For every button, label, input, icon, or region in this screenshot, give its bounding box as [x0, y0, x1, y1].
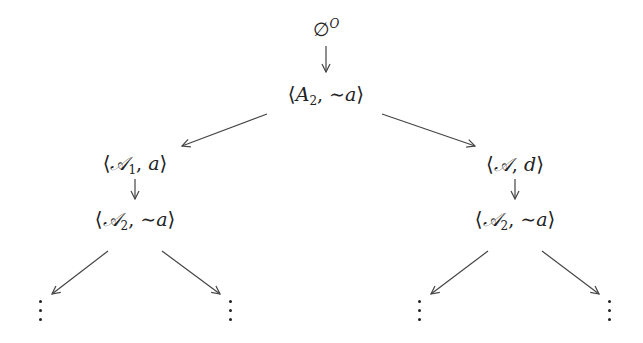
- conclusion: ∼a: [520, 208, 547, 230]
- edge-n0-n2: [382, 114, 475, 146]
- ellipsis-1: [39, 300, 43, 327]
- empty-set-symbol: ∅: [313, 18, 330, 40]
- edge-n3-ellipsis-1: [52, 251, 108, 294]
- argument-symbol: A: [296, 83, 310, 105]
- conclusion: d: [524, 153, 536, 175]
- edge-n4-ellipsis-3: [431, 251, 488, 294]
- node-argument-A1-a: ⟨𝒜1, a⟩: [103, 153, 168, 176]
- ellipsis-2: [229, 300, 233, 327]
- ellipsis-3: [418, 300, 422, 327]
- edge-n0-n1: [182, 114, 267, 146]
- tree-edges: [0, 0, 643, 343]
- argument-symbol: 𝒜: [483, 208, 501, 230]
- edge-n3-ellipsis-2: [162, 251, 220, 294]
- edge-n4-ellipsis-4: [542, 251, 599, 294]
- root-node-empty-set: ∅O: [313, 18, 340, 39]
- argument-symbol: 𝒜: [494, 153, 512, 175]
- root-superscript: O: [330, 17, 340, 31]
- node-argument-A2-not-a-right: ⟨𝒜2, ∼a⟩: [475, 209, 556, 232]
- node-argument-A2-not-a: ⟨A2, ∼a⟩: [288, 84, 364, 107]
- argument-tree-diagram: ∅O ⟨A2, ∼a⟩ ⟨𝒜1, a⟩ ⟨𝒜, d⟩ ⟨𝒜2, ∼a⟩ ⟨𝒜2,…: [0, 0, 643, 343]
- conclusion: a: [148, 152, 159, 174]
- node-argument-A-d: ⟨𝒜, d⟩: [486, 154, 544, 174]
- conclusion: ∼a: [140, 208, 167, 230]
- conclusion: ∼a: [329, 83, 356, 105]
- argument-symbol: 𝒜: [110, 152, 128, 174]
- argument-symbol: 𝒜: [103, 208, 121, 230]
- ellipsis-4: [608, 300, 612, 327]
- node-argument-A2-not-a-left: ⟨𝒜2, ∼a⟩: [95, 209, 176, 232]
